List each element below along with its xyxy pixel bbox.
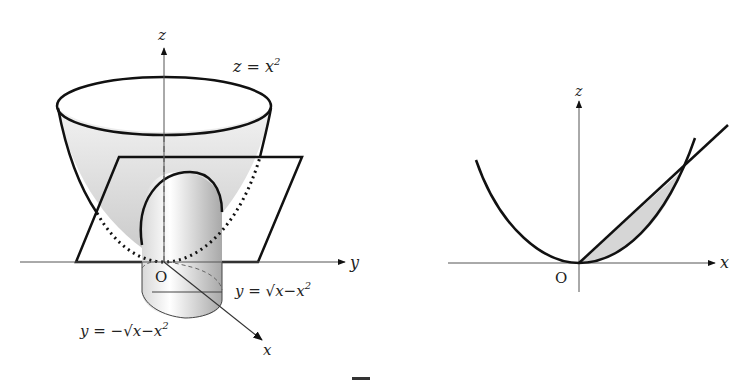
origin-label-right: O [555,269,567,287]
left-3d-figure: z y x O z = x2 y = √x−x2 y = −√x−x2 [20,26,360,359]
diagram-canvas: z y x O z = x2 y = √x−x2 y = −√x−x2 z x … [0,0,754,380]
z-axis-label-right: z [574,83,583,99]
upper-boundary-equation: y = √x−x2 [234,280,311,300]
surface-equation: z = x2 [232,56,280,76]
origin-label: O [155,268,167,286]
cylinder-surface [142,172,222,318]
right-2d-figure: z x O [448,83,729,292]
x-axis-label-right: x [720,253,729,272]
z-axis-label: z [157,26,166,44]
y-axis-label: y [349,253,360,272]
x-axis-label: x [263,341,272,359]
line-curve [579,125,728,263]
lower-boundary-equation: y = −√x−x2 [79,320,169,340]
